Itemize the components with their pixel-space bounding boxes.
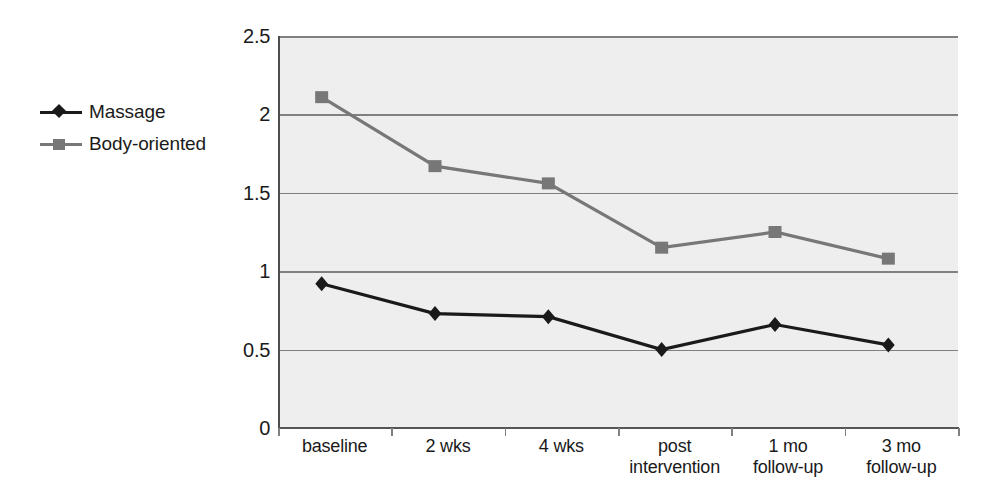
data-point-marker [542,309,555,324]
data-point-marker [429,306,442,321]
series-layer [0,0,999,500]
data-point-marker [542,177,555,189]
line-chart: Massage Body-oriented 00.511.522.5 basel… [0,0,999,500]
data-point-marker [315,276,328,291]
data-point-marker [429,160,442,172]
data-point-marker [882,253,895,265]
series-line-massage [322,284,889,350]
data-point-marker [882,337,895,352]
data-point-marker [769,317,782,332]
data-point-marker [655,242,668,254]
series-line-body-oriented [322,97,889,259]
data-point-marker [655,342,668,357]
data-point-marker [315,91,328,103]
data-point-marker [769,226,782,238]
